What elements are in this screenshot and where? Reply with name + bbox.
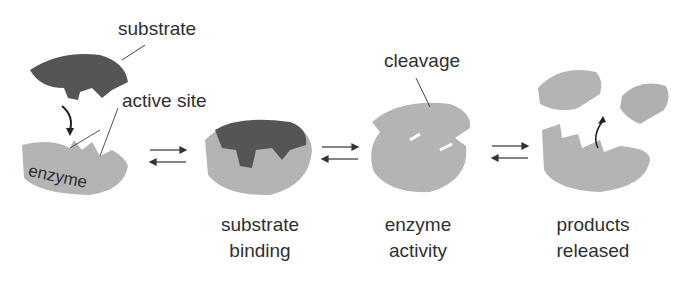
caption-products-released: products released xyxy=(533,212,653,264)
cleaved-complex xyxy=(371,103,470,192)
substrate-shape xyxy=(30,54,128,100)
cleavage-pointer xyxy=(416,78,430,107)
active-site-label: active site xyxy=(122,90,206,112)
substrate-pointer xyxy=(122,45,145,60)
equilibrium-arrow-3 xyxy=(492,143,528,161)
product-fragment-2 xyxy=(620,84,669,124)
equilibrium-arrow-1 xyxy=(150,147,186,165)
caption-substrate-binding: substrate binding xyxy=(200,212,320,264)
equilibrium-arrow-2 xyxy=(322,144,358,162)
cleavage-label: cleavage xyxy=(384,50,460,72)
caption-enzyme-activity: enzyme activity xyxy=(358,212,478,264)
substrate-label: substrate xyxy=(118,18,196,40)
product-fragment-1 xyxy=(538,70,601,110)
bind-arrow-icon xyxy=(62,106,71,130)
